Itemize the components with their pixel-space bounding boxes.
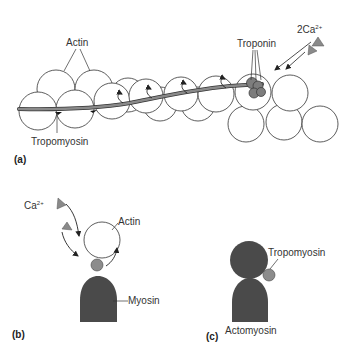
tropomyosin-label-c: Tropomyosin [268, 247, 325, 258]
panel-b-label: (b) [12, 329, 25, 340]
troponin-label: Troponin [237, 38, 276, 49]
tropomyosin-bead [263, 269, 275, 281]
panel-a: Actin Tropomyosin Troponin 2Ca2+ (a) [14, 24, 338, 165]
muscle-contraction-diagram: Actin Tropomyosin Troponin 2Ca2+ (a) Ca2… [0, 0, 344, 349]
calcium-ion-icon [308, 45, 317, 55]
calcium-label-a: 2Ca2+ [297, 24, 323, 35]
tropomyosin-bead [91, 259, 103, 271]
actin-monomer-bound [230, 241, 268, 279]
actin-label-b: Actin [118, 216, 140, 227]
tropomyosin-label: Tropomyosin [31, 136, 88, 147]
myosin-head-bound [232, 278, 268, 322]
calcium-ion-icon [57, 198, 66, 209]
myosin-head [80, 276, 117, 322]
panel-b: Ca2+ Actin Myosin (b) [12, 198, 160, 340]
calcium-label-b: Ca2+ [24, 200, 44, 211]
panel-c-label: (c) [206, 331, 218, 342]
calcium-ion-icon [62, 222, 72, 230]
actin-label: Actin [66, 37, 88, 48]
calcium-ion-icon [312, 37, 324, 46]
actomyosin-label: Actomyosin [225, 325, 277, 336]
calcium-arrow-in [66, 204, 79, 236]
myosin-label: Myosin [128, 295, 160, 306]
calcium-arrow-in [275, 42, 311, 70]
panel-c: Tropomyosin Actomyosin (c) [206, 241, 325, 342]
calcium-arrow-out [62, 232, 78, 256]
panel-a-label: (a) [14, 154, 26, 165]
